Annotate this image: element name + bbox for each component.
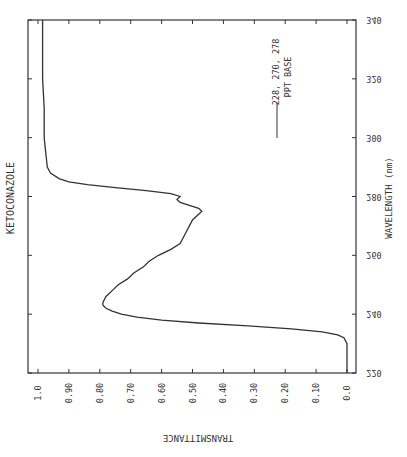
spectrum-chart: 220240260280300320340 1.00.900.800.700.6… (0, 0, 407, 457)
wavelength-tick-label: 260 (366, 250, 381, 260)
transmittance-tick-label: 0.30 (249, 383, 259, 403)
transmittance-tick-label: 0.10 (311, 383, 321, 403)
transmittance-tick-label: 1.0 (33, 385, 43, 400)
legend-label-series: PPT BASE (283, 57, 293, 98)
transmittance-tick-label: 0.20 (280, 383, 290, 403)
transmittance-tick-label: 0.90 (64, 383, 74, 403)
transmittance-tick-label: 0.40 (218, 383, 228, 403)
spectrum-line (43, 20, 347, 373)
legend: 228, 270, 278PPT BASE (271, 39, 293, 138)
transmittance-tick-label: 0.70 (126, 383, 136, 403)
transmittance-tick-label: 0.50 (188, 383, 198, 403)
wavelength-axis-label: WAVELENGTH (nm) (384, 157, 394, 238)
wavelength-tick-label: 240 (366, 309, 381, 319)
transmittance-axis-label: TRANSMITTANCE (163, 433, 233, 443)
transmittance-tick-label: 0.0 (342, 385, 352, 400)
wavelength-tick-label: 340 (366, 15, 381, 25)
transmittance-axis: 1.00.900.800.700.600.500.400.300.200.100… (33, 20, 352, 403)
wavelength-tick-label: 320 (366, 74, 381, 84)
plot-frame (28, 20, 356, 373)
transmittance-tick-label: 0.60 (157, 383, 167, 403)
wavelength-tick-label: 300 (366, 133, 381, 143)
wavelength-tick-label: 280 (366, 192, 381, 202)
transmittance-tick-label: 0.80 (95, 383, 105, 403)
chart-title: KETOCONAZOLE (5, 162, 16, 234)
legend-label-peaks: 228, 270, 278 (271, 39, 281, 106)
wavelength-tick-label: 220 (366, 368, 381, 378)
